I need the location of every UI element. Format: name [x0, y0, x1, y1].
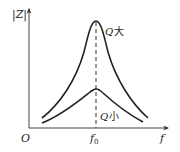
label-low-q: Q小 [100, 111, 119, 122]
x-axis-label: f [159, 132, 166, 145]
impedance-resonance-diagram: |Z| O f0 f Q大 Q小 [0, 0, 180, 152]
label-high-q: Q大 [105, 25, 124, 37]
curve-high-q [42, 21, 148, 118]
y-axis-label: |Z| [12, 8, 27, 22]
origin-label: O [21, 132, 30, 145]
resonance-frequency-label: f0 [89, 132, 99, 146]
resonance-subscript: 0 [94, 138, 98, 146]
